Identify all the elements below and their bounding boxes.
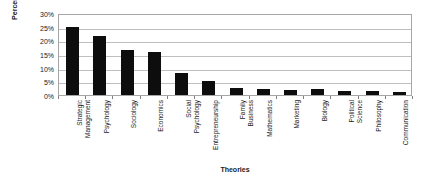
bar [284, 90, 297, 95]
x-tick [140, 96, 141, 99]
y-tick-label: 15% [40, 52, 54, 59]
bar [366, 91, 379, 95]
x-category-label: Political Science [348, 100, 363, 162]
bar [311, 89, 324, 95]
x-tick [412, 96, 413, 99]
x-category-label: Biology [321, 100, 329, 162]
x-tick [112, 96, 113, 99]
bar [257, 89, 270, 95]
x-tick [85, 96, 86, 99]
x-axis-title: Theories [58, 166, 412, 173]
x-category-label: Communication [402, 100, 410, 162]
x-tick [330, 96, 331, 99]
y-tick-label: 30% [40, 11, 54, 18]
bar [230, 88, 243, 95]
x-category-label: Mathematics [266, 100, 274, 162]
x-tick [276, 96, 277, 99]
bar-chart: Percentage 0%5%10%15%20%25%30% Strategic… [0, 0, 433, 187]
x-category-label: Social Psychology [185, 100, 200, 162]
x-tick [194, 96, 195, 99]
y-tick-label: 0% [44, 93, 54, 100]
y-axis-title: Percentage [11, 0, 23, 36]
bar [202, 81, 215, 95]
y-tick-label: 10% [40, 65, 54, 72]
x-category-label: Philosophy [375, 100, 383, 162]
bar [338, 91, 351, 95]
bar [175, 73, 188, 95]
x-tick [385, 96, 386, 99]
bar [393, 92, 406, 95]
x-category-label: Strategic Management [76, 100, 91, 162]
x-category-label: Entrepreneurship [212, 100, 220, 162]
y-tick-label: 25% [40, 24, 54, 31]
y-tick-label: 5% [44, 79, 54, 86]
x-category-label: Economics [157, 100, 165, 162]
bar [66, 27, 79, 95]
y-tick-label: 20% [40, 38, 54, 45]
bar [148, 52, 161, 95]
x-category-label: Psychology [103, 100, 111, 162]
x-tick [58, 96, 59, 99]
bar-series [59, 15, 411, 95]
x-category-label: Marketing [293, 100, 301, 162]
bar [93, 36, 106, 95]
x-tick [221, 96, 222, 99]
x-category-label: Family Business [239, 100, 254, 162]
x-tick [167, 96, 168, 99]
x-tick [249, 96, 250, 99]
x-tick [358, 96, 359, 99]
plot-area [58, 14, 412, 96]
y-axis-tick-labels: 0%5%10%15%20%25%30% [26, 14, 56, 96]
x-tick [303, 96, 304, 99]
x-axis-category-labels: Strategic ManagementPsychologySociologyE… [58, 100, 412, 162]
x-category-label: Sociology [130, 100, 138, 162]
bar [121, 50, 134, 95]
